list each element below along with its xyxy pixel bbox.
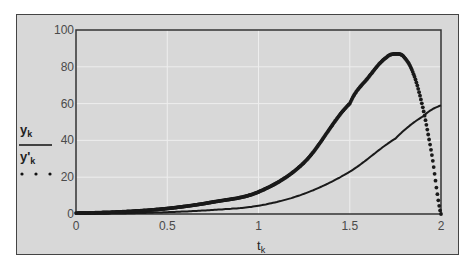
series-point-yprime xyxy=(437,204,441,208)
chart-svg: 020406080100 00.511.52 yk y'k tk xyxy=(0,0,466,276)
series-point-yprime xyxy=(425,128,429,132)
series-point-yprime xyxy=(421,105,425,109)
legend-dot-icon xyxy=(48,172,51,175)
y-tick-label: 100 xyxy=(54,23,74,37)
series-point-yprime xyxy=(426,133,430,137)
x-tick-label: 0 xyxy=(73,219,80,233)
series-point-yprime xyxy=(425,123,429,127)
legend-dot-icon xyxy=(20,172,23,175)
series-point-yprime xyxy=(417,90,421,94)
series-point-yprime xyxy=(430,153,434,157)
y-tick-label: 40 xyxy=(61,133,75,147)
series-point-yprime xyxy=(419,98,423,102)
series-point-yprime xyxy=(423,114,427,118)
series-point-yprime xyxy=(418,94,422,98)
x-tick-label: 0.5 xyxy=(159,219,176,233)
x-tick-label: 1 xyxy=(255,219,262,233)
series-point-yprime xyxy=(431,159,435,163)
series-point-yprime xyxy=(422,110,426,114)
series-point-yprime xyxy=(436,198,440,202)
series-point-yprime xyxy=(436,192,440,196)
series-point-yprime xyxy=(432,165,436,169)
y-tick-label: 80 xyxy=(61,60,75,74)
series-point-yprime xyxy=(428,143,432,147)
series-point-yprime xyxy=(435,186,439,190)
series-point-yprime xyxy=(438,209,442,213)
series-point-yprime xyxy=(434,179,438,183)
x-axis-ticks: 00.511.52 xyxy=(73,219,445,233)
series-point-yprime xyxy=(424,118,428,122)
legend: yk y'k xyxy=(19,122,52,176)
series-point-yprime xyxy=(439,212,443,216)
y-tick-label: 20 xyxy=(61,170,75,184)
series-point-yprime xyxy=(433,172,437,176)
legend-dot-icon xyxy=(34,172,37,175)
legend-series2-label: y'k xyxy=(20,149,36,166)
y-axis-ticks: 020406080100 xyxy=(54,23,74,221)
series-point-yprime xyxy=(415,84,419,88)
series-point-yprime xyxy=(427,138,431,142)
series-point-yprime xyxy=(429,148,433,152)
x-tick-label: 1.5 xyxy=(341,219,358,233)
legend-series1-label: yk xyxy=(20,122,33,139)
x-tick-label: 2 xyxy=(438,219,445,233)
y-tick-label: 60 xyxy=(61,97,75,111)
x-axis-label: tk xyxy=(257,238,266,255)
series-point-yprime xyxy=(416,87,420,91)
series-point-yprime xyxy=(420,101,424,105)
